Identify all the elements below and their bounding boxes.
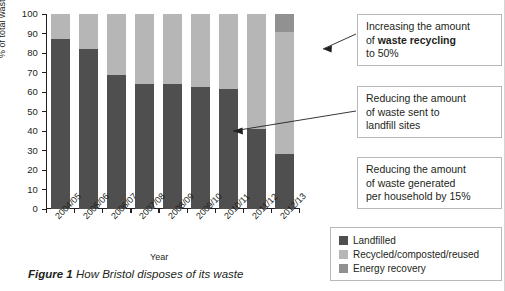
y-axis-line bbox=[46, 14, 47, 209]
callout-waste-per-household: Reducing the amount of waste generated p… bbox=[357, 157, 502, 209]
y-axis-tick bbox=[42, 111, 46, 112]
callout-line-2-prefix: of bbox=[366, 34, 378, 46]
axis-frame bbox=[46, 14, 299, 209]
legend-label: Energy recovery bbox=[353, 263, 426, 274]
bar-segment bbox=[135, 84, 154, 209]
bar bbox=[191, 14, 210, 209]
y-axis-tick-label: 30 bbox=[12, 145, 38, 156]
callout-landfill-sites: Reducing the amount of waste sent to lan… bbox=[357, 86, 502, 138]
bar-segment bbox=[79, 49, 98, 209]
y-axis-tick bbox=[42, 131, 46, 132]
figure-number: Figure 1 bbox=[28, 268, 73, 280]
figure-container: 0102030405060708090100 2004/052005/06200… bbox=[0, 0, 505, 291]
y-axis-tick bbox=[42, 170, 46, 171]
chart-legend: LandfilledRecycled/composted/reusedEnerg… bbox=[330, 227, 502, 281]
x-axis-tick bbox=[299, 209, 300, 213]
bar-segment bbox=[219, 14, 238, 89]
x-axis-tick bbox=[130, 209, 131, 213]
legend-item: Landfilled bbox=[339, 233, 494, 247]
legend-swatch bbox=[339, 236, 348, 245]
callout-line-3: landfill sites bbox=[366, 119, 494, 133]
callout-line-2: of waste generated bbox=[366, 177, 494, 191]
bar bbox=[79, 14, 98, 209]
bar bbox=[163, 14, 182, 209]
bar-segment bbox=[107, 75, 126, 209]
y-axis-tick-label: 20 bbox=[12, 164, 38, 175]
y-axis-tick bbox=[42, 150, 46, 151]
figure-caption: Figure 1 How Bristol disposes of its was… bbox=[28, 268, 243, 280]
legend-swatch bbox=[339, 264, 348, 273]
bar bbox=[219, 14, 238, 209]
figure-caption-text: How Bristol disposes of its waste bbox=[76, 268, 243, 280]
bar bbox=[247, 14, 266, 209]
x-axis-tick bbox=[46, 209, 47, 213]
arrow-line-recycling bbox=[323, 34, 356, 49]
chart-plot-area: 0102030405060708090100 2004/052005/06200… bbox=[46, 14, 299, 209]
bar-segment bbox=[107, 14, 126, 75]
legend-item: Recycled/composted/reused bbox=[339, 247, 494, 261]
bar-segment bbox=[247, 14, 266, 129]
x-axis-tick bbox=[215, 209, 216, 213]
callout-line-1: Reducing the amount bbox=[366, 92, 494, 106]
callout-line-3: to 50% bbox=[366, 47, 494, 61]
legend-label: Landfilled bbox=[353, 235, 396, 246]
callout-line-1: Reducing the amount bbox=[366, 163, 494, 177]
y-axis-tick-label: 100 bbox=[12, 8, 38, 19]
bar-segment bbox=[163, 14, 182, 84]
y-axis-tick-label: 50 bbox=[12, 106, 38, 117]
arrow-head-recycling bbox=[323, 46, 332, 53]
bar-segment bbox=[275, 14, 294, 32]
callout-waste-recycling: Increasing the amount of waste recycling… bbox=[357, 14, 502, 66]
legend-label: Recycled/composted/reused bbox=[353, 249, 479, 260]
bar-segment bbox=[79, 14, 98, 49]
x-axis-tick bbox=[243, 209, 244, 213]
y-axis-tick bbox=[42, 33, 46, 34]
bar-segment bbox=[51, 14, 70, 39]
y-axis-tick-label: 60 bbox=[12, 86, 38, 97]
bar-segment bbox=[219, 89, 238, 209]
callout-line-2-bold: waste recycling bbox=[378, 34, 456, 46]
bar-segment bbox=[135, 14, 154, 84]
callout-line-2: of waste recycling bbox=[366, 34, 494, 48]
bar-segment bbox=[275, 32, 294, 155]
y-axis-tick bbox=[42, 14, 46, 15]
x-axis-tick bbox=[187, 209, 188, 213]
callout-line-2: of waste sent to bbox=[366, 106, 494, 120]
y-axis-tick bbox=[42, 189, 46, 190]
y-axis-tick-label: 10 bbox=[12, 184, 38, 195]
x-axis-tick bbox=[158, 209, 159, 213]
bar bbox=[275, 14, 294, 209]
x-axis-tick bbox=[102, 209, 103, 213]
bar bbox=[51, 14, 70, 209]
legend-item: Energy recovery bbox=[339, 261, 494, 275]
y-axis-tick bbox=[42, 92, 46, 93]
legend-swatch bbox=[339, 250, 348, 259]
bar bbox=[135, 14, 154, 209]
bar-segment bbox=[191, 87, 210, 209]
y-axis-title: % of total waste bbox=[0, 0, 7, 58]
y-axis-tick-label: 80 bbox=[12, 47, 38, 58]
x-axis-tick bbox=[271, 209, 272, 213]
bar bbox=[107, 14, 126, 209]
x-axis-tick bbox=[74, 209, 75, 213]
y-axis-tick bbox=[42, 53, 46, 54]
y-axis-tick-label: 70 bbox=[12, 67, 38, 78]
y-axis-tick-label: 90 bbox=[12, 28, 38, 39]
bar-segment bbox=[51, 39, 70, 209]
x-axis-title: Year bbox=[150, 252, 168, 262]
bar-segment bbox=[191, 14, 210, 87]
callout-line-3: per household by 15% bbox=[366, 190, 494, 204]
y-axis-tick bbox=[42, 72, 46, 73]
bar-segment bbox=[163, 84, 182, 209]
y-axis-tick-label: 40 bbox=[12, 125, 38, 136]
y-axis-tick-label: 0 bbox=[12, 203, 38, 214]
callout-line-1: Increasing the amount bbox=[366, 20, 494, 34]
